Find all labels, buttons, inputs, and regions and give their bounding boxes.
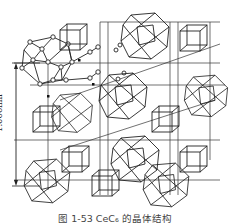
crystal-structure-diagram (0, 0, 230, 223)
lattice-grid (14, 22, 225, 195)
figure-caption: 图 1-53 CeC₆ 的晶体结构 (0, 211, 230, 223)
cuboctahedra (24, 13, 227, 207)
dimension-arrow (12, 63, 40, 186)
dimension-label: 1.066nm (0, 94, 4, 132)
